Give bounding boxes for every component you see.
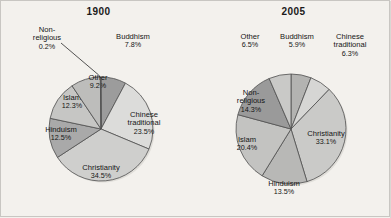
pie-slice-label: Non-religious0.2% <box>33 25 61 51</box>
pie-slice-label-percent: 7.8% <box>125 40 142 49</box>
pie-slice-label: Islam20.4% <box>237 135 258 152</box>
pie-chart-panel-2005: 2005 Buddhism5.9%Chinesetraditional6.3%C… <box>196 1 391 218</box>
pie-slice-label-percent: 23.5% <box>134 127 155 136</box>
pie-chart-1900: Buddhism7.8%Chinesetraditional23.5%Chris… <box>1 1 196 218</box>
pie-slice-label-percent: 0.2% <box>39 42 56 51</box>
pie-slice-label: Chinesetraditional6.3% <box>334 32 367 58</box>
pie-slice-label-percent: 9.2% <box>90 81 107 90</box>
pie-slice-label-percent: 20.4% <box>237 143 258 152</box>
pie-slice-label-percent: 13.5% <box>274 187 295 196</box>
pie-slice-label-percent: 33.1% <box>316 137 337 146</box>
pie-slice-label: Other9.2% <box>89 73 108 90</box>
pie-slice-label-percent: 14.3% <box>241 105 262 114</box>
pie-slice-label: Buddhism5.9% <box>280 32 314 49</box>
pie-slice-label-percent: 6.3% <box>342 49 359 58</box>
pie-chart-2005: Buddhism5.9%Chinesetraditional6.3%Christ… <box>196 1 391 218</box>
pie-slice-label: Other6.5% <box>241 32 260 49</box>
pie-slice-label: Buddhism7.8% <box>116 32 150 49</box>
pie-slice-label-percent: 12.3% <box>62 101 83 110</box>
pie-slice-label-percent: 6.5% <box>242 40 259 49</box>
pie-slice-label-percent: 5.9% <box>289 40 306 49</box>
pie-chart-panel-1900: 1900 Buddhism7.8%Chinesetraditional23.5%… <box>1 1 196 218</box>
pie-slice-label-percent: 12.5% <box>51 133 72 142</box>
pie-slice-label-percent: 34.5% <box>91 171 112 180</box>
pie-slice-label: Hinduism13.5% <box>268 179 300 196</box>
